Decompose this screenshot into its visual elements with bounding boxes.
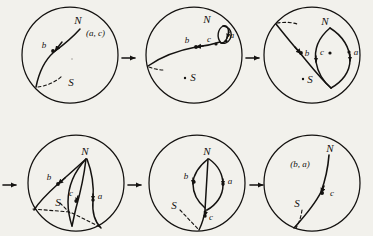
dot-S-mark — [302, 78, 304, 80]
sphere-outline — [28, 135, 124, 231]
loop-arrowhead — [227, 32, 229, 38]
lens-left-arc — [316, 28, 331, 88]
lens-right-arc — [330, 28, 350, 88]
point-b — [192, 180, 195, 183]
dashed-S-to-bottom — [180, 210, 199, 230]
curve-N-c-bottom — [199, 159, 208, 230]
point-b — [194, 45, 198, 49]
panel-5-label-b: b — [184, 171, 189, 181]
dashed-arc-top — [277, 22, 297, 24]
transition-arrows — [3, 58, 263, 185]
panel-5-label-a: a — [228, 176, 233, 186]
panel-1 — [22, 7, 118, 103]
panel-6 — [264, 135, 360, 231]
panel-4 — [28, 135, 124, 231]
dot-S-mark — [184, 77, 186, 79]
point-b — [56, 182, 60, 186]
panel-6-label-N: N — [325, 142, 334, 154]
sphere-outline — [146, 7, 242, 103]
sphere-transformation-diagram: N (a, c) b S N b c a S N b c a S N b c a… — [0, 0, 373, 236]
curve-left-to-loop — [148, 42, 220, 66]
sphere-outline — [264, 135, 360, 231]
panel-5-label-c: c — [209, 212, 213, 222]
figure-canvas: N (a, c) b S N b c a S N b c a S N b c a… — [0, 0, 373, 236]
panel-6-label-S: S — [294, 197, 300, 209]
dashed-S-down — [60, 203, 71, 214]
point-a — [91, 198, 94, 201]
panel-3 — [264, 7, 360, 103]
dashed-left-horizontal — [33, 209, 70, 212]
panel-6-label-c: c — [330, 188, 334, 198]
panel-1-label-N: N — [73, 14, 82, 26]
panel-3-label-b: b — [305, 48, 310, 58]
panel-3-label-S: S — [307, 73, 313, 85]
panel-4-label-a: a — [98, 191, 103, 201]
point-b — [299, 51, 303, 55]
panel-3-label-c: c — [320, 47, 324, 57]
dot-center-mark — [71, 58, 72, 59]
point-c — [214, 42, 217, 45]
panel-4-label-c: c — [69, 188, 73, 198]
point-a — [224, 39, 227, 42]
panel-3-label-a: a — [354, 47, 359, 57]
point-c — [328, 51, 331, 54]
panel-4-label-S: S — [55, 196, 61, 208]
panel-4-label-b: b — [47, 172, 52, 182]
sphere-outline — [22, 7, 118, 103]
panel-5-label-N: N — [202, 145, 211, 157]
panel-1-label-S: S — [68, 76, 74, 88]
dashed-tail — [149, 67, 164, 70]
point-c — [320, 191, 324, 195]
panel-5-label-S: S — [171, 199, 177, 211]
panel-3-label-N: N — [320, 15, 329, 27]
panel-1-label-b: b — [42, 40, 47, 50]
point-c — [203, 214, 206, 217]
panel-2-label-c: c — [207, 34, 211, 44]
point-b — [51, 49, 55, 53]
point-a — [221, 182, 224, 185]
panel-6-label-pair-ba: (b, a) — [290, 159, 310, 169]
panel-2-label-N: N — [202, 13, 211, 25]
panel-2-label-a: a — [230, 30, 235, 40]
dashed-arc-S — [38, 76, 62, 87]
point-c — [74, 199, 77, 202]
panel-2-label-S: S — [190, 71, 196, 83]
sphere-outline — [264, 7, 360, 103]
point-a — [347, 50, 350, 53]
panel-2-label-b: b — [185, 35, 190, 45]
panel-1-label-pair-ac: (a, c) — [86, 28, 105, 38]
lens-right-arc — [207, 159, 223, 210]
panel-4-label-N: N — [80, 145, 89, 157]
panel-2 — [146, 7, 242, 103]
